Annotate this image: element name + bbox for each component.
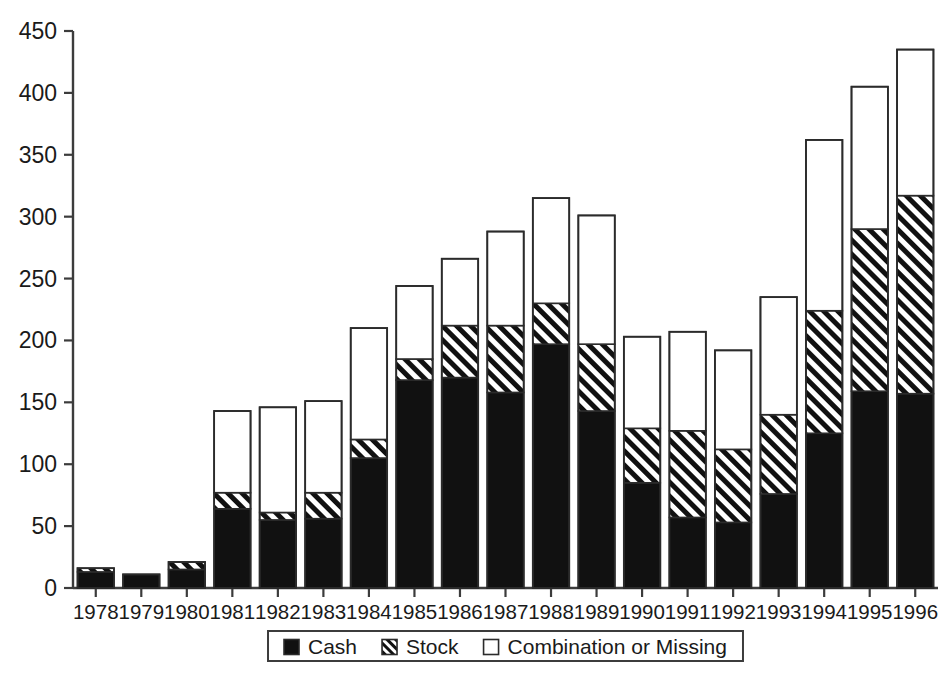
x-tick-label-1992: 1992 — [710, 600, 756, 623]
bar-segment-1996-stock — [897, 196, 933, 394]
y-tick-label: 200 — [19, 327, 57, 353]
x-tick-label-1984: 1984 — [346, 600, 392, 623]
bar-segment-1986-stock — [442, 326, 478, 378]
x-tick-label-1988: 1988 — [528, 600, 574, 623]
x-tick-label-1991: 1991 — [665, 600, 711, 623]
legend-label-cash: Cash — [308, 635, 357, 658]
bar-1995 — [852, 87, 888, 588]
bar-segment-1989-combination — [578, 215, 614, 344]
bar-segment-1987-cash — [487, 392, 523, 588]
bar-segment-1988-cash — [533, 344, 569, 588]
x-tick-label-1989: 1989 — [574, 600, 620, 623]
bar-segment-1989-stock — [578, 344, 614, 411]
bar-segment-1983-stock — [305, 493, 341, 519]
bar-segment-1991-stock — [669, 431, 705, 518]
bar-1985 — [396, 286, 432, 588]
bar-segment-1981-cash — [214, 509, 250, 588]
bar-segment-1995-combination — [852, 87, 888, 229]
y-tick-label: 250 — [19, 266, 57, 292]
bar-segment-1986-cash — [442, 378, 478, 588]
bar-1979 — [123, 574, 159, 588]
x-tick-label-1985: 1985 — [392, 600, 438, 623]
bar-1991 — [669, 332, 705, 588]
x-tick-label-1996: 1996 — [892, 600, 938, 623]
bar-segment-1981-combination — [214, 411, 250, 493]
x-tick-label-1980: 1980 — [164, 600, 210, 623]
bar-segment-1984-cash — [351, 458, 387, 588]
bar-1992 — [715, 350, 751, 588]
bar-1988 — [533, 198, 569, 588]
bar-segment-1992-combination — [715, 350, 751, 449]
bar-segment-1994-cash — [806, 433, 842, 588]
bar-1994 — [806, 140, 842, 588]
x-tick-label-1983: 1983 — [301, 600, 347, 623]
bar-segment-1979-cash — [123, 574, 159, 588]
x-tick-label-1987: 1987 — [483, 600, 529, 623]
y-tick-label: 100 — [19, 451, 57, 477]
bar-1989 — [578, 215, 614, 588]
bar-segment-1993-combination — [760, 297, 796, 415]
bar-segment-1996-cash — [897, 394, 933, 588]
y-tick-label: 450 — [19, 18, 57, 44]
legend-label-combination: Combination or Missing — [508, 635, 727, 658]
bar-1980 — [169, 562, 205, 588]
y-tick-label: 300 — [19, 204, 57, 230]
bar-segment-1989-cash — [578, 411, 614, 588]
x-tick-label-1978: 1978 — [73, 600, 119, 623]
bar-segment-1982-stock — [260, 512, 296, 519]
x-tick-label-1993: 1993 — [756, 600, 802, 623]
y-tick-label: 150 — [19, 389, 57, 415]
bar-segment-1983-combination — [305, 401, 341, 493]
bar-segment-1996-combination — [897, 50, 933, 196]
x-tick-labels: 1978197919801981198219831984198519861987… — [73, 600, 938, 623]
y-tick-label: 350 — [19, 142, 57, 168]
bar-1990 — [624, 337, 660, 588]
chart-canvas: 050100150200250300350400450 197819791980… — [0, 0, 951, 686]
x-tick-label-1990: 1990 — [619, 600, 665, 623]
bar-segment-1982-combination — [260, 407, 296, 512]
bar-segment-1980-cash — [169, 569, 205, 588]
bar-segment-1984-stock — [351, 439, 387, 458]
chart-legend: CashStockCombination or Missing — [268, 631, 743, 661]
legend-swatch-stock — [382, 640, 397, 655]
bar-segment-1985-combination — [396, 286, 432, 359]
bar-1987 — [487, 232, 523, 588]
bar-segment-1991-cash — [669, 517, 705, 588]
bar-segment-1983-cash — [305, 519, 341, 588]
bar-segment-1987-stock — [487, 326, 523, 393]
x-tick-label-1981: 1981 — [210, 600, 256, 623]
bar-segment-1986-combination — [442, 259, 478, 326]
bar-1982 — [260, 407, 296, 588]
bar-1984 — [351, 328, 387, 588]
y-tick-label: 400 — [19, 80, 57, 106]
bar-1981 — [214, 411, 250, 588]
bar-segment-1978-cash — [78, 572, 114, 588]
bar-segment-1985-stock — [396, 359, 432, 380]
bar-segment-1985-cash — [396, 380, 432, 588]
bar-segment-1994-combination — [806, 140, 842, 311]
bar-1978 — [78, 568, 114, 588]
y-tick-label: 0 — [44, 575, 57, 601]
bar-segment-1990-stock — [624, 428, 660, 482]
bar-segment-1993-cash — [760, 494, 796, 588]
bar-1986 — [442, 259, 478, 588]
bar-1983 — [305, 401, 341, 588]
legend-label-stock: Stock — [406, 635, 459, 658]
bar-segment-1990-combination — [624, 337, 660, 429]
legend-swatch-cash — [284, 640, 299, 655]
x-tick-label-1994: 1994 — [801, 600, 847, 623]
bar-segment-1988-combination — [533, 198, 569, 303]
x-tick-label-1979: 1979 — [118, 600, 164, 623]
x-tick-label-1982: 1982 — [255, 600, 301, 623]
legend-swatch-combination — [484, 640, 499, 655]
bar-segment-1992-stock — [715, 449, 751, 522]
bar-segment-1992-cash — [715, 522, 751, 588]
x-tick-label-1995: 1995 — [847, 600, 893, 623]
bar-1993 — [760, 297, 796, 588]
bar-segment-1995-stock — [852, 229, 888, 391]
bar-segment-1980-stock — [169, 562, 205, 569]
bar-segment-1981-stock — [214, 493, 250, 509]
bar-1996 — [897, 50, 933, 588]
bar-segment-1984-combination — [351, 328, 387, 439]
bar-segment-1982-cash — [260, 520, 296, 588]
